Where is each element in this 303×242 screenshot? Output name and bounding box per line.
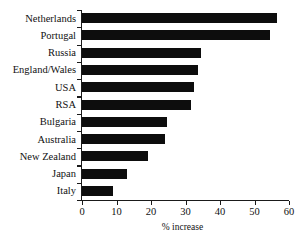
bar-row [82,10,289,27]
bar-row [82,79,289,96]
y-axis-label: Russia [48,47,76,58]
x-axis-title: % increase [0,222,303,232]
y-axis-label: RSA [56,99,76,110]
y-axis-label: Portugal [40,30,76,41]
bar [82,48,201,58]
bar-row [82,131,289,148]
y-axis-tick [77,183,81,184]
x-axis-tick-label: 20 [136,206,166,218]
y-axis-tick [77,27,81,28]
y-axis-tick [77,79,81,80]
bar-row [82,114,289,131]
x-axis-tick [151,201,152,205]
bar-row [82,96,289,113]
bar [82,151,148,161]
bar-row [82,62,289,79]
bar [82,134,165,144]
y-axis-tick [77,114,81,115]
y-axis-tick [77,200,81,201]
y-axis-label: Australia [38,134,77,145]
y-axis-label: USA [55,82,76,93]
y-axis-tick [77,131,81,132]
y-axis-tick [77,45,81,46]
x-axis-tick-label: 50 [240,206,270,218]
bar-chart: NetherlandsPortugalRussiaEngland/WalesUS… [0,0,303,242]
x-axis-tick [82,201,83,205]
y-axis-tick [77,148,81,149]
bar-row [82,183,289,200]
bar-row [82,148,289,165]
x-axis-tick [220,201,221,205]
x-axis-tick [289,201,290,205]
y-axis-label: Japan [52,168,76,179]
y-axis-label: Bulgaria [40,116,76,127]
x-axis-tick-label: 10 [102,206,132,218]
bar-row [82,165,289,182]
bar-row [82,27,289,44]
bar [82,186,113,196]
x-axis-tick-label: 0 [67,206,97,218]
plot-area [82,10,289,200]
y-axis-label: New Zealand [20,151,76,162]
bar [82,82,194,92]
y-axis-tick [77,96,81,97]
y-axis-label: Italy [57,185,76,196]
y-axis-category-labels: NetherlandsPortugalRussiaEngland/WalesUS… [0,10,76,200]
bar-row [82,45,289,62]
x-axis-tick-label: 30 [171,206,201,218]
y-axis-tick [77,62,81,63]
bar [82,117,167,127]
y-axis-label: Netherlands [25,13,76,24]
x-axis-tick [255,201,256,205]
x-axis-tick [186,201,187,205]
y-axis-tick [77,165,81,166]
bar [82,65,198,75]
bar [82,169,127,179]
bar [82,13,277,23]
x-axis-tick-label: 40 [205,206,235,218]
x-axis-tick-label: 60 [274,206,303,218]
bar [82,30,270,40]
y-axis-tick [77,10,81,11]
y-axis-label: England/Wales [13,64,76,75]
x-axis-tick [117,201,118,205]
bar [82,100,191,110]
